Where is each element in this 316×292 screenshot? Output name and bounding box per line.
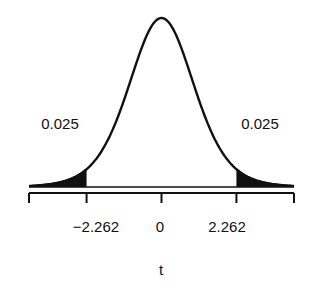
tick-label-neg-crit: −2.262: [73, 219, 119, 234]
left-tail-shaded-region: [29, 168, 87, 187]
t-distribution-chart: [0, 0, 316, 292]
right-tail-shaded-region: [236, 168, 294, 187]
x-axis: [29, 193, 294, 203]
tick-label-zero: 0: [156, 219, 164, 234]
tick-label-pos-crit: 2.262: [208, 219, 246, 234]
right-tail-area-label: 0.025: [241, 116, 279, 131]
density-curve: [29, 18, 294, 186]
x-axis-label: t: [159, 262, 163, 277]
left-tail-area-label: 0.025: [41, 116, 79, 131]
